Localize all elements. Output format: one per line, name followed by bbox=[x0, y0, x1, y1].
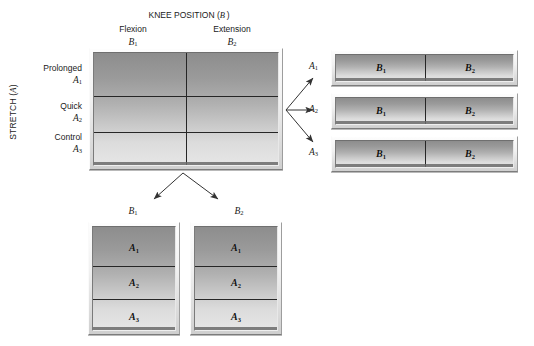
row-panel-a1: B1 B2 bbox=[331, 50, 518, 86]
matrix-col-divider-1 bbox=[186, 53, 187, 165]
row-header-control-name: Control bbox=[55, 133, 82, 142]
column-panel-b1-cell-a3: A3 bbox=[129, 311, 139, 322]
row-panel-a3-divider bbox=[425, 141, 426, 167]
column-panel-b1-divider-2 bbox=[93, 299, 175, 300]
row-panel-label-a3: A3 bbox=[309, 148, 318, 158]
column-header-extension-name: Extension bbox=[213, 25, 250, 34]
row-panel-a1-cells: B1 B2 bbox=[335, 54, 514, 82]
row-panel-a3-cell-b2: B2 bbox=[465, 148, 475, 159]
column-panel-b2: A1 A2 A3 bbox=[190, 222, 282, 335]
column-header-flexion-name: Flexion bbox=[119, 25, 146, 34]
row-header-quick-name: Quick bbox=[60, 102, 82, 111]
column-axis-title-text: KNEE POSITION ( bbox=[148, 10, 219, 20]
column-panel-b1-divider-1 bbox=[93, 266, 175, 267]
column-panel-b2-divider-2 bbox=[195, 299, 277, 300]
row-panel-a2: B1 B2 bbox=[331, 93, 518, 129]
column-header-extension-code: B2 bbox=[227, 38, 236, 48]
column-panel-b1: A1 A2 A3 bbox=[88, 222, 180, 335]
row-panel-label-a1: A1 bbox=[309, 62, 318, 72]
column-header-flexion-code: B1 bbox=[128, 38, 137, 48]
matrix-cells-area bbox=[93, 52, 279, 166]
column-panel-b2-cells: A1 A2 A3 bbox=[194, 226, 278, 331]
arrows-to-column-panels bbox=[154, 173, 218, 199]
row-panel-a3-cell-b1: B1 bbox=[376, 148, 386, 159]
factorial-design-matrix bbox=[89, 48, 283, 170]
column-panel-b1-cell-a2: A2 bbox=[129, 277, 139, 288]
row-panel-a1-divider bbox=[425, 55, 426, 81]
column-axis-title: KNEE POSITION (B ) bbox=[148, 11, 229, 20]
row-header-control-code: A3 bbox=[73, 145, 82, 155]
column-panel-b2-cell-a3: A3 bbox=[231, 311, 241, 322]
row-axis-title: STRETCH (A) bbox=[8, 84, 18, 140]
column-panel-b1-cells: A1 A2 A3 bbox=[92, 226, 176, 331]
row-panel-a3: B1 B2 bbox=[331, 136, 518, 172]
row-header-prolonged-code: A1 bbox=[73, 76, 82, 86]
row-axis-title-text: STRETCH ( bbox=[8, 93, 18, 140]
row-panel-label-a2: A2 bbox=[309, 105, 318, 115]
row-header-quick-code: A2 bbox=[73, 114, 82, 124]
row-panel-a2-cell-b2: B2 bbox=[465, 105, 475, 116]
row-panel-a1-cell-b1: B1 bbox=[376, 62, 386, 73]
row-panel-a2-cells: B1 B2 bbox=[335, 97, 514, 125]
row-panel-a2-divider bbox=[425, 98, 426, 124]
column-panel-label-b2: B2 bbox=[234, 207, 243, 217]
row-panel-a1-cell-b2: B2 bbox=[465, 62, 475, 73]
anova-factorial-design-figure: KNEE POSITION (B ) Flexion B1 Extension … bbox=[0, 0, 534, 346]
column-panel-b2-cell-a1: A1 bbox=[231, 242, 241, 253]
row-panel-a2-cell-b1: B1 bbox=[376, 105, 386, 116]
row-panel-a3-cells: B1 B2 bbox=[335, 140, 514, 168]
column-panel-label-b1: B1 bbox=[128, 207, 137, 217]
column-panel-b1-cell-a1: A1 bbox=[129, 242, 139, 253]
column-panel-b2-cell-a2: A2 bbox=[231, 277, 241, 288]
column-panel-b2-divider-1 bbox=[195, 266, 277, 267]
row-header-prolonged-name: Prolonged bbox=[43, 64, 82, 73]
